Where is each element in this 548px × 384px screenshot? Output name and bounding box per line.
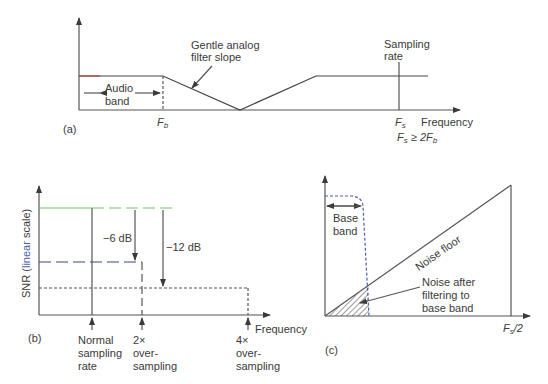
minus-6db-label: −6 dB xyxy=(103,232,132,244)
tick-normal-1: Normal xyxy=(78,334,113,346)
panel-a-graph xyxy=(79,18,460,110)
slope-annotation-line2: filter slope xyxy=(191,51,241,63)
sampling-annotation-line2: rate xyxy=(384,50,403,62)
tick-4x-2: over- xyxy=(236,347,261,359)
panel-b-tag: (b) xyxy=(28,332,41,344)
noise-floor-line xyxy=(325,185,511,316)
tick-normal-2: sampling xyxy=(78,347,122,359)
base-band-label-2: band xyxy=(333,225,357,237)
x-axis-label-b: Frequency xyxy=(255,323,307,335)
panel-c-tag: (c) xyxy=(325,344,338,356)
panel-a-tag: (a) xyxy=(63,123,76,135)
panel-b-graph xyxy=(39,186,270,330)
fs-half-label: Fs/2 xyxy=(503,322,523,338)
tick-4x-3: sampling xyxy=(236,360,280,372)
noise-after-3: base band xyxy=(422,302,473,314)
x-axis-label-a: Frequency xyxy=(421,116,473,128)
tick-2x-3: sampling xyxy=(133,360,177,372)
tick-normal-3: rate xyxy=(78,360,97,372)
minus-12db-label: −12 dB xyxy=(166,241,201,253)
sampling-annotation-line1: Sampling xyxy=(384,38,430,50)
fb-label: Fb xyxy=(157,116,168,132)
noise-after-1: Noise after xyxy=(422,276,475,288)
tick-4x-1: 4× xyxy=(236,334,249,346)
audio-band-label-1: Audio xyxy=(105,82,133,94)
y-axis-label-b: SNR (linear scale) xyxy=(20,209,32,298)
fs-label: Fs xyxy=(395,116,406,132)
sampling-condition: Fs ≥ 2Fb xyxy=(397,131,437,147)
slope-annotation-line1: Gentle analog xyxy=(191,39,260,51)
base-band-label-1: Base xyxy=(333,212,358,224)
audio-band-label-2: band xyxy=(105,95,129,107)
noise-after-2: filtering to xyxy=(422,289,470,301)
tick-2x-1: 2× xyxy=(133,334,146,346)
tick-2x-2: over- xyxy=(133,347,158,359)
